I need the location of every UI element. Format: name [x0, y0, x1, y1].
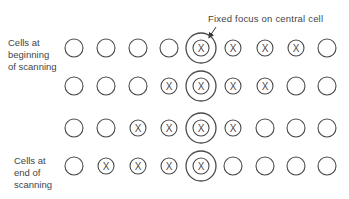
- empty-cell: [287, 119, 305, 137]
- x-mark-icon: X: [135, 123, 142, 134]
- marked-cell: X: [225, 40, 241, 56]
- focus-cell: X: [186, 151, 216, 181]
- marked-cell: X: [130, 120, 146, 136]
- empty-cell: [256, 157, 274, 175]
- x-mark-icon: X: [230, 123, 237, 134]
- x-mark-icon: X: [198, 161, 205, 172]
- empty-cell: [129, 77, 147, 95]
- empty-cell: [318, 39, 336, 57]
- x-mark-icon: X: [262, 43, 269, 54]
- focus-cell: X: [186, 71, 216, 101]
- marked-cell: X: [288, 40, 304, 56]
- x-mark-icon: X: [166, 123, 173, 134]
- empty-cell: [224, 157, 242, 175]
- x-mark-icon: X: [198, 81, 205, 92]
- x-mark-icon: X: [166, 81, 173, 92]
- x-mark-icon: X: [198, 123, 205, 134]
- empty-cell: [65, 119, 83, 137]
- empty-cell: [318, 157, 336, 175]
- empty-cell: [129, 39, 147, 57]
- x-mark-icon: X: [230, 81, 237, 92]
- empty-cell: [97, 39, 115, 57]
- empty-cell: [97, 119, 115, 137]
- x-mark-icon: X: [166, 161, 173, 172]
- focus-cell: X: [186, 33, 216, 63]
- empty-cell: [65, 39, 83, 57]
- marked-cell: X: [161, 120, 177, 136]
- marked-cell: X: [225, 78, 241, 94]
- marked-cell: X: [257, 78, 273, 94]
- marked-cell: X: [161, 78, 177, 94]
- marked-cell: X: [130, 158, 146, 174]
- empty-cell: [160, 39, 178, 57]
- empty-cell: [256, 119, 274, 137]
- empty-cell: [287, 157, 305, 175]
- x-mark-icon: X: [262, 81, 269, 92]
- x-mark-icon: X: [230, 43, 237, 54]
- marked-cell: X: [257, 40, 273, 56]
- marked-cell: X: [98, 158, 114, 174]
- x-mark-icon: X: [293, 43, 300, 54]
- x-mark-icon: X: [198, 43, 205, 54]
- focus-cell: X: [186, 113, 216, 143]
- empty-cell: [318, 119, 336, 137]
- marked-cell: X: [161, 158, 177, 174]
- x-mark-icon: X: [135, 161, 142, 172]
- empty-cell: [65, 77, 83, 95]
- x-mark-icon: X: [103, 161, 110, 172]
- empty-cell: [287, 77, 305, 95]
- empty-cell: [65, 157, 83, 175]
- focus-arrow-icon: [210, 27, 216, 36]
- scanning-cells-diagram: XXXXXXXXXXXXXXXX: [0, 0, 349, 199]
- empty-cell: [318, 77, 336, 95]
- marked-cell: X: [225, 120, 241, 136]
- empty-cell: [97, 77, 115, 95]
